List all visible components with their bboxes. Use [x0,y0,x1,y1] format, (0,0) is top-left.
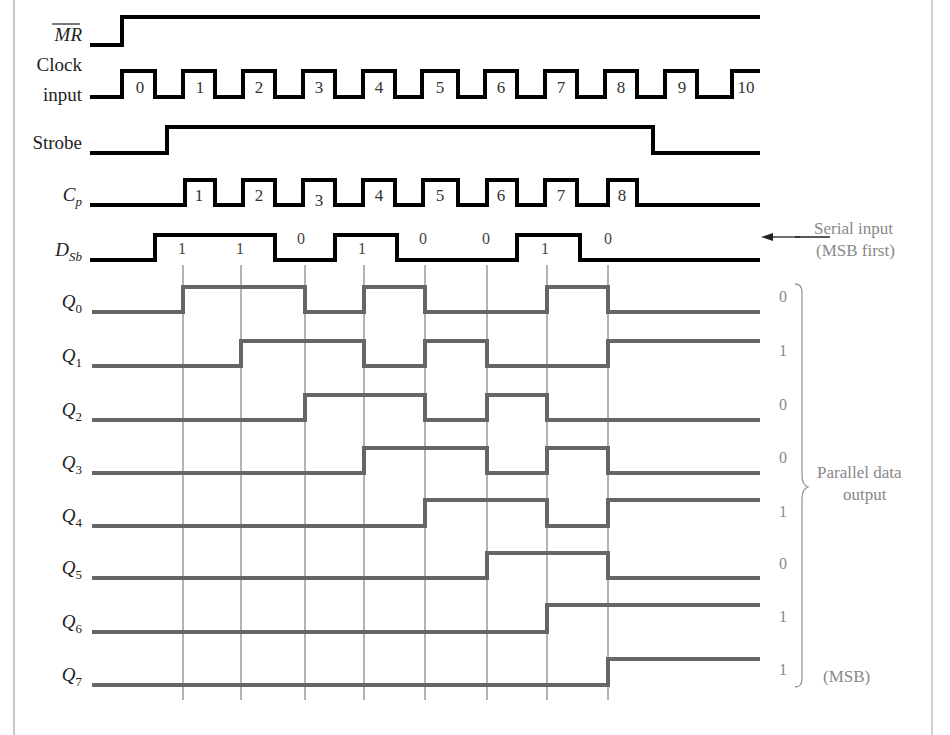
cp-pulse-number: 7 [557,186,566,205]
timing-diagram-canvas: 0123456789101234567811010010 01001011 MR… [0,0,950,735]
cp-pulse-number: 4 [375,186,384,205]
parallel-output-brace: Parallel data output (MSB) [795,284,902,687]
serial-bit-label: 0 [482,230,490,247]
mr-waveform [90,17,760,45]
q1-label: Q1 [62,345,82,370]
q2-label: Q2 [62,399,82,424]
page-border-right [931,0,933,735]
signal-labels: MRClockinputStrobeCpDSbQ0Q1Q2Q3Q4Q5Q6Q7 [32,24,82,689]
cp-pulse-number: 1 [195,186,204,205]
q5-label: Q5 [62,557,82,582]
cp-waveform [90,180,760,205]
cp-pulse-number: 6 [497,186,506,205]
serial-bit-label: 0 [419,230,427,247]
page-border-left [13,0,15,735]
q4-label: Q4 [62,505,83,530]
q0-waveform [92,287,760,312]
parallel-output-bit: 0 [779,555,787,572]
serial-bit-label: 1 [358,240,366,257]
strobe-waveform [90,127,760,153]
serial-input-label: Serial input [814,219,893,238]
serial-bit-label: 1 [236,240,244,257]
clock-pulse-number: 2 [255,78,264,97]
cp-pulse-number: 3 [315,191,324,210]
q2-waveform [92,395,760,420]
cp-pulse-number: 8 [618,186,627,205]
output-label: output [843,485,887,504]
clock-pulse-number: 8 [617,78,626,97]
msb-first-label: (MSB first) [816,241,895,260]
mr-label: MR [54,24,83,45]
parallel-data-label: Parallel data [817,463,902,482]
clock-pulse-number: 7 [557,78,566,97]
strobe-label: Strobe [32,132,82,153]
q3-label: Q3 [62,452,82,477]
serial-bit-label: 0 [297,230,305,247]
cp-label: Cp [63,184,83,209]
clock-edge-gridlines [183,265,608,700]
q6-label: Q6 [62,611,83,636]
input-signal-waveforms: 0123456789101234567811010010 [90,17,760,260]
serial-input-annotation: Serial input (MSB first) [761,219,895,260]
msb-label: (MSB) [823,667,870,686]
serial-bit-label: 1 [541,240,549,257]
parallel-output-bit: 1 [779,342,787,359]
clock-label-line2: input [43,84,83,105]
clock-pulse-number: 6 [497,78,506,97]
clock-label-line1: Clock [37,54,83,75]
q7-label: Q7 [62,664,83,689]
q6-waveform [92,605,760,632]
clock-pulse-number: 4 [375,78,384,97]
q4-waveform [92,500,760,526]
parallel-output-bit: 0 [779,288,787,305]
parallel-output-bit: 0 [779,449,787,466]
clock-pulse-number: 0 [136,78,145,97]
serial-bit-label: 1 [178,240,186,257]
q7-waveform [92,659,760,685]
q5-waveform [92,553,760,578]
curly-brace-icon [795,284,808,687]
serial-bit-label: 0 [604,230,612,247]
parallel-output-bit: 0 [779,396,787,413]
output-waveforms: 01001011 [92,287,787,685]
q3-waveform [92,448,760,473]
clock-pulse-number: 1 [196,78,205,97]
clock-pulse-number: 10 [738,78,755,97]
q0-label: Q0 [62,291,82,316]
parallel-output-bit: 1 [779,608,787,625]
parallel-output-bit: 1 [779,661,787,678]
clock-pulse-number: 3 [315,78,324,97]
timing-diagram: 0123456789101234567811010010 01001011 MR… [0,0,950,735]
cp-pulse-number: 5 [436,186,445,205]
parallel-output-bit: 1 [779,503,787,520]
cp-pulse-number: 2 [255,186,264,205]
q1-waveform [92,341,760,366]
clock-pulse-number: 5 [436,78,445,97]
dsb-label: DSb [54,239,82,264]
clock-waveform [90,71,760,97]
clock-pulse-number: 9 [678,78,687,97]
